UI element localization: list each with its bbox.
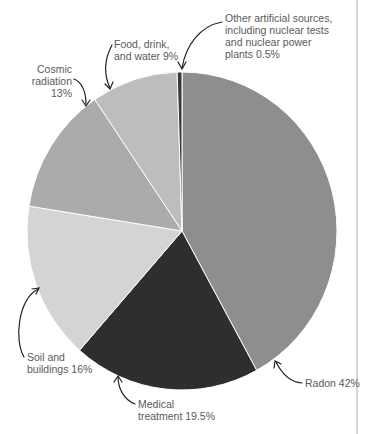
label-other: Other artificial sources, including nucl… — [225, 12, 332, 60]
arrow-radon — [276, 362, 302, 383]
arrow-food — [106, 45, 112, 88]
label-medical: Medical treatment 19.5% — [138, 398, 215, 422]
pie-slices — [27, 72, 337, 390]
label-cosmic: Cosmic radiation 13% — [14, 63, 72, 99]
label-radon: Radon 42% — [305, 377, 360, 389]
arrow-other — [182, 22, 222, 68]
arrow-soil — [19, 289, 38, 357]
label-food: Food, drink, and water 9% — [114, 38, 178, 62]
label-soil: Soil and buildings 16% — [27, 351, 92, 375]
arrow-cosmic — [74, 79, 86, 104]
page-edge-rule — [356, 0, 358, 434]
